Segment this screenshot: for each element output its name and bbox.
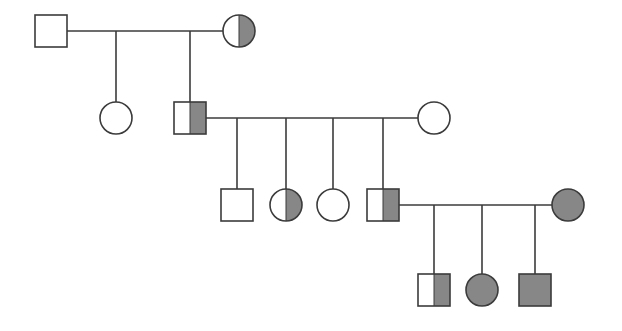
symbol-II-1-unaffected-female xyxy=(100,102,132,134)
symbol-III-1-unaffected-male xyxy=(221,189,253,221)
symbol-III-2-carrier-female xyxy=(270,189,302,221)
symbol-III-3-unaffected-female xyxy=(317,189,349,221)
symbol-IV-2-affected-female xyxy=(466,274,498,306)
symbol-III-5-affected-female xyxy=(552,189,584,221)
symbol-I-2-carrier-female xyxy=(223,15,255,47)
symbol-IV-1-carrier-male xyxy=(418,274,450,306)
symbol-II-2-carrier-male xyxy=(174,102,206,134)
symbol-IV-3-affected-male xyxy=(519,274,551,306)
generation-IV xyxy=(418,274,551,306)
pedigree-canvas xyxy=(0,0,622,331)
symbol-II-3-unaffected-female xyxy=(418,102,450,134)
pedigree-chart xyxy=(0,0,622,331)
symbol-III-4-carrier-male xyxy=(367,189,399,221)
symbol-I-1-unaffected-male xyxy=(35,15,67,47)
